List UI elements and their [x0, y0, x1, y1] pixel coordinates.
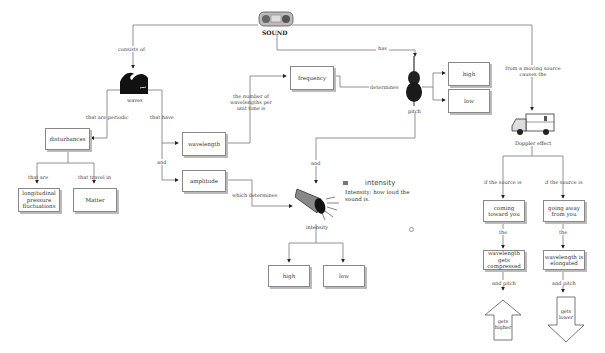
note-icon — [343, 181, 348, 185]
node-intensity-high[interactable]: high — [268, 265, 310, 287]
link-and-pitch: and — [311, 160, 320, 166]
node-wavelength[interactable]: wavelength — [182, 132, 226, 156]
gets-lower-label: gets lower — [557, 308, 575, 320]
node-disturbances[interactable]: disturbances — [45, 128, 90, 150]
root-title: SOUND — [262, 29, 287, 36]
link-that-have: that have — [150, 114, 174, 120]
link-and-pitch-left: and pitch — [492, 280, 516, 286]
link-the-right: the — [559, 229, 567, 235]
node-elongated[interactable]: wavelength is elongated — [543, 250, 585, 270]
node-matter[interactable]: Matter — [73, 188, 117, 212]
link-from-moving-source: from a moving source causes the — [505, 65, 561, 77]
node-longitudinal[interactable]: longitudinal pressure fluctuations — [18, 188, 60, 212]
node-pitch-high[interactable]: high — [448, 62, 490, 86]
link-consists-of: consists of — [118, 46, 145, 52]
node-frequency[interactable]: frequency — [290, 66, 334, 90]
node-amplitude[interactable]: amplitude — [182, 170, 226, 192]
node-going-away[interactable]: going away from you — [543, 200, 585, 222]
doppler-label: Doppler effect — [515, 140, 551, 146]
node-intensity-low[interactable]: low — [323, 265, 365, 287]
link-if-source-left: if the source is — [484, 179, 522, 185]
pitch-label: pitch — [408, 108, 421, 114]
megaphone-icon — [295, 185, 343, 221]
node-compressed[interactable]: wavelength gets compressed — [483, 250, 525, 270]
link-that-are: that are — [28, 174, 48, 180]
node-pitch-low[interactable]: low — [448, 89, 490, 113]
link-and-pitch-right: and pitch — [552, 280, 576, 286]
link-that-travel-in: that travel in — [78, 174, 111, 180]
waves-label: waves — [127, 97, 143, 103]
node-coming-toward[interactable]: coming toward you — [483, 200, 525, 222]
cello-icon — [405, 56, 423, 106]
wave-icon — [120, 70, 148, 94]
note-body: Intensity: how loud the sound is. — [345, 189, 415, 202]
intensity-label: intensity — [306, 224, 328, 230]
link-if-source-right: if the source is — [545, 179, 583, 185]
link-wavelengths-per-time: the number of wavelengths per unit time … — [225, 93, 277, 111]
radio-icon — [258, 10, 294, 27]
link-determines: determines — [369, 84, 400, 90]
link-and: and — [157, 159, 166, 165]
ambulance-icon — [510, 112, 556, 136]
gets-higher-label: gets higher — [494, 318, 512, 330]
link-which-determines: which determines — [232, 192, 277, 198]
link-has: has — [376, 45, 389, 51]
link-that-are-periodic: that are periodic — [86, 114, 129, 120]
link-the-left: the — [499, 229, 507, 235]
note-anchor-icon[interactable] — [409, 227, 414, 232]
note-title: intensity — [365, 179, 395, 187]
